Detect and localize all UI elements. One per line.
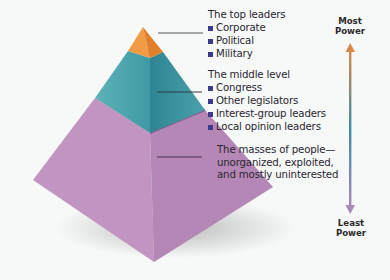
list-item: Interest-group leaders <box>208 107 326 120</box>
masses-line: and mostly uninterested <box>217 169 338 182</box>
middle-level-heading: The middle level <box>208 68 326 81</box>
list-item: Corporate <box>208 21 285 34</box>
middle-level-label: The middle level Congress Other legislat… <box>208 68 326 133</box>
top-leaders-label: The top leaders Corporate Political Mili… <box>208 8 285 60</box>
list-item: Local opinion leaders <box>208 120 326 133</box>
list-item: Other legislators <box>208 94 326 107</box>
least-power-line: Power <box>326 228 376 238</box>
top-leaders-heading: The top leaders <box>208 8 285 21</box>
masses-line: The masses of people— <box>217 144 338 157</box>
power-scale-arrow <box>346 43 356 214</box>
list-item: Political <box>208 34 285 47</box>
pyramid-graphic <box>0 0 390 280</box>
most-power-label: Most Power <box>325 16 375 36</box>
masses-label: The masses of people— unorganized, explo… <box>217 144 338 182</box>
most-power-line: Most <box>325 16 375 26</box>
most-power-line: Power <box>325 26 375 36</box>
arrow-up-icon <box>346 43 356 52</box>
power-pyramid-diagram: The top leaders Corporate Political Mili… <box>0 0 390 280</box>
least-power-label: Least Power <box>326 218 376 238</box>
least-power-line: Least <box>326 218 376 228</box>
list-item: Military <box>208 47 285 60</box>
list-item: Congress <box>208 81 326 94</box>
arrow-down-icon <box>346 205 356 214</box>
masses-line: unorganized, exploited, <box>217 157 338 170</box>
